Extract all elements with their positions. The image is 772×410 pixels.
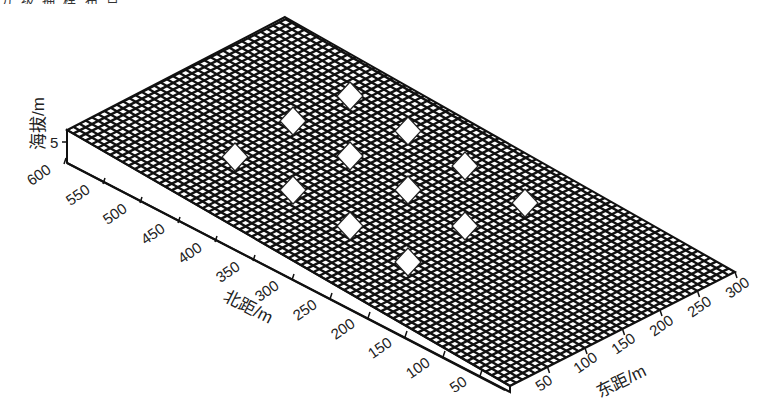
north-tick-label: 450	[137, 220, 167, 248]
east-axis-label: 东距/m	[593, 361, 649, 401]
north-tick	[64, 158, 66, 164]
north-tick-label: 150	[364, 334, 394, 362]
east-tick	[548, 367, 550, 373]
north-tick-label: 50	[446, 373, 469, 396]
north-tick-label: 550	[62, 181, 92, 209]
z-tick-label: 5	[50, 134, 58, 151]
north-tick-label: 500	[99, 200, 129, 228]
north-tick-label: 350	[212, 258, 242, 286]
north-tick-label: 100	[402, 354, 432, 382]
east-tick-label: 50	[532, 371, 555, 394]
north-tick-label: 200	[327, 315, 357, 343]
terrain-mesh-chart: 5 海拔/m 600550500450400350300250200150100…	[0, 0, 772, 410]
north-tick-label: 250	[289, 296, 319, 324]
north-tick-label: 600	[23, 161, 53, 189]
z-axis-label: 海拔/m	[29, 97, 48, 150]
north-tick-label: 400	[174, 239, 204, 267]
